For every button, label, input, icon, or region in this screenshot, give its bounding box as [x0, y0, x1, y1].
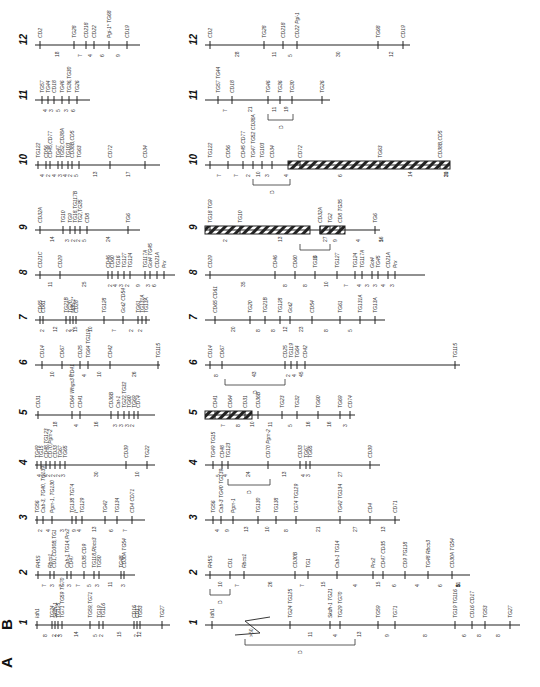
distance-value: 11	[271, 107, 277, 112]
distance-value: 10	[264, 526, 270, 532]
chromosome-7: 7CD65 CD61TG20TG21BTG128Got2CD54TG61TG13…	[188, 286, 385, 332]
marker-label: CD29	[57, 255, 63, 268]
chromosome-number: 10	[18, 153, 29, 165]
marker-label: TG28	[261, 25, 267, 38]
marker-label: TG124	[127, 252, 133, 268]
marker-label: TG65	[62, 445, 68, 458]
chromosome-10: 10TG122CD56CD45 CD77TG47 TG52 CD38ATG103…	[188, 113, 450, 194]
distance-value: 10	[134, 471, 140, 477]
chromosome-5: 5CD41CD64CD31CD36BTG23TG32TG60TG69CD7478…	[188, 391, 355, 427]
chromosome-number: 8	[188, 269, 199, 275]
marker-label: CD18	[51, 80, 57, 93]
distance-value: 7	[41, 584, 47, 587]
distance-value: 9	[332, 239, 338, 242]
distance-value: >50	[248, 628, 254, 637]
marker-label: TG124	[352, 252, 358, 268]
marker-label: TG129	[79, 497, 85, 513]
marker-label: CD74	[347, 395, 353, 408]
marker-label: CD31	[242, 395, 248, 408]
marker-label: TG2	[327, 213, 333, 223]
distance-value: 26	[267, 581, 273, 587]
distance-value: 13	[356, 631, 362, 637]
distance-value: 5	[287, 424, 293, 427]
distance-value: 14	[407, 171, 413, 177]
marker-label: CD54	[309, 300, 315, 313]
distance-value: 11	[455, 582, 461, 587]
marker-label: CD4	[367, 503, 373, 513]
distance-value: 3	[120, 584, 126, 587]
marker-label: CD34	[269, 145, 275, 158]
marker-label: TG22	[144, 445, 150, 458]
distance-value: 16	[378, 236, 384, 242]
distance-value: 9	[135, 284, 141, 287]
marker-label: TG50	[96, 555, 102, 568]
marker-label: CD32A	[37, 206, 43, 223]
distance-value: 8	[495, 634, 501, 637]
marker-label: CD14	[207, 345, 213, 358]
distance-value: 10	[96, 371, 102, 377]
chromosome-number: 8	[18, 269, 29, 275]
distance-value: 11	[107, 582, 113, 587]
distance-value: 18	[52, 421, 58, 427]
marker-label: TG30	[289, 80, 295, 93]
distance-value: 11	[307, 632, 313, 637]
distance-value: 3	[49, 584, 55, 587]
marker-label: CD218	[83, 22, 89, 38]
marker-label: TG53	[482, 605, 488, 618]
marker-label: CD72	[297, 145, 303, 158]
marker-label: Got2 CD54	[120, 288, 126, 313]
chromosome-10: 10TG122CD56CD45,CD77TG47TG52,CD38ATG103C…	[18, 127, 160, 177]
marker-label: TG63	[377, 145, 383, 158]
distance-value: 13	[380, 526, 386, 532]
distance-value: 9	[115, 54, 121, 57]
distance-value: 7	[77, 54, 83, 57]
bracket-label: D	[246, 490, 252, 494]
panel-label: A	[0, 657, 15, 668]
chromosome-8: 8CD21CCD29CD46CD60TG16TG127TG124TG117AGo…	[18, 243, 175, 287]
distance-value: 4	[76, 529, 82, 532]
distance-value: 4	[45, 529, 51, 532]
distance-value: 9	[384, 634, 390, 637]
distance-value: 8	[213, 374, 219, 377]
marker-label: Prx	[161, 260, 167, 268]
marker-label: CD45,CD77	[47, 131, 53, 158]
marker-label: TG48 Rbcs3	[425, 540, 431, 568]
distance-value: 3	[372, 284, 378, 287]
marker-label: CD4 CD71	[129, 489, 135, 513]
marker-label: CD2	[37, 28, 43, 38]
marker-label: TG74 TG129	[293, 484, 299, 513]
distance-value: 15	[375, 581, 381, 587]
marker-label: TG1	[305, 558, 311, 568]
distance-value: 15	[72, 326, 78, 332]
panel-label: B	[0, 619, 15, 630]
distance-value: 8	[323, 329, 329, 332]
distance-value: 8	[282, 284, 288, 287]
chromosome-7: 7CD65CD61TG21BTG20Mdh-1*CD28TG128Got2 CD…	[18, 288, 150, 332]
distance-value: 3	[305, 474, 311, 477]
chromosome-number: 12	[188, 33, 199, 45]
chromosome-number: 12	[18, 33, 29, 45]
marker-label: TG116	[100, 603, 106, 618]
marker-label: TG117A	[359, 249, 365, 268]
marker-label: TG23	[279, 395, 285, 408]
distance-value: 10	[255, 171, 261, 177]
distance-value: 4	[332, 634, 338, 637]
distance-value: 6	[70, 109, 76, 112]
distance-value: 25	[81, 281, 87, 287]
marker-label: TG46	[265, 80, 271, 93]
marker-label: CD71	[392, 500, 398, 513]
marker-label: TG64 TG119	[85, 329, 91, 358]
marker-label: TG27	[507, 605, 513, 618]
marker-label: CD61	[40, 300, 46, 313]
chromosome-9: 9CD32ATG10TG9TG18,TG117BTG2,TG35CD8TG614…	[18, 190, 140, 242]
marker-label: CD70 Pgm-2	[265, 429, 271, 458]
panel-B: B12CD2TG28CD218CD22 Pgi-1TG68CD192811530…	[0, 12, 520, 654]
distance-value: 7	[75, 584, 81, 587]
chromosome-12: 12CD2TG28CD218CD22Pgi-1* TG68CD19187469	[18, 10, 140, 57]
distortion-bracket	[300, 244, 330, 250]
distance-value: 12	[388, 51, 394, 57]
distance-value: 7	[122, 529, 128, 532]
marker-label: TG42 TG134	[337, 484, 343, 513]
chromosome-number: 1	[18, 619, 29, 625]
marker-label: TG47 TG52 CD38A	[250, 113, 256, 158]
